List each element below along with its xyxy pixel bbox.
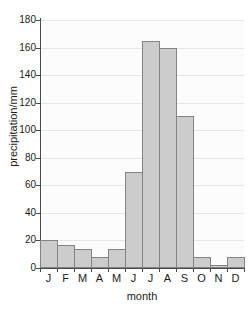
bar: [57, 245, 75, 268]
bar: [91, 257, 109, 268]
x-tick-label: S: [176, 271, 193, 285]
bar: [142, 41, 160, 268]
x-tick-label: M: [108, 271, 125, 285]
x-axis-title: month: [40, 290, 244, 303]
x-tick-label: A: [159, 271, 176, 285]
bar: [176, 116, 194, 268]
y-tick-label: 40: [0, 208, 36, 218]
x-tick-label: J: [142, 271, 159, 285]
y-tick-label: 180: [0, 15, 36, 25]
bar: [74, 249, 92, 268]
bar-series: [40, 20, 244, 268]
y-tick-label: 160: [0, 43, 36, 53]
bar: [227, 257, 245, 268]
y-tick-label: 0: [0, 263, 36, 273]
precipitation-bar-chart: 020406080100120140160180 JFMAMJJASOND mo…: [0, 0, 252, 312]
bar: [108, 249, 126, 268]
bar: [125, 172, 143, 268]
x-tick-label: N: [210, 271, 227, 285]
x-tick-label: A: [91, 271, 108, 285]
y-axis-title: precipitation/mm: [7, 57, 20, 197]
x-tick-label: D: [227, 271, 244, 285]
y-tick-label: 20: [0, 235, 36, 245]
x-tick-label: J: [125, 271, 142, 285]
x-tick-label: F: [57, 271, 74, 285]
bar: [159, 48, 177, 268]
x-tick-mark: [244, 268, 245, 272]
bar: [193, 257, 211, 268]
x-tick-label: O: [193, 271, 210, 285]
bar: [40, 240, 58, 268]
x-tick-label: M: [74, 271, 91, 285]
x-axis-ticks: JFMAMJJASOND: [40, 271, 244, 287]
bar: [210, 265, 228, 268]
x-tick-label: J: [40, 271, 57, 285]
